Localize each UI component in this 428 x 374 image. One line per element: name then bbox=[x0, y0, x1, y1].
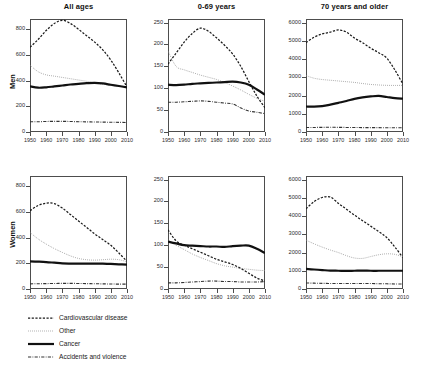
y-tick-label: 600 bbox=[4, 52, 25, 58]
y-tick bbox=[164, 201, 168, 202]
panel-women-1: 0501001502002501950196019701980199020002… bbox=[142, 159, 269, 308]
series-line-cardiovascular-disease bbox=[30, 203, 127, 261]
y-tick bbox=[164, 245, 168, 246]
series-line-other bbox=[168, 51, 265, 101]
x-tick bbox=[111, 132, 112, 136]
y-tick bbox=[164, 180, 168, 181]
y-tick-label: 200 bbox=[4, 260, 25, 266]
y-tick-label: 4000 bbox=[280, 213, 301, 219]
y-tick bbox=[26, 186, 30, 187]
y-tick-label: 50 bbox=[142, 264, 163, 270]
x-tick bbox=[184, 132, 185, 136]
legend-key-dashed-icon bbox=[28, 313, 54, 323]
y-tick bbox=[302, 41, 306, 42]
x-tick bbox=[338, 289, 339, 293]
x-tick bbox=[62, 289, 63, 293]
x-tick bbox=[62, 132, 63, 136]
x-tick bbox=[265, 132, 266, 136]
y-tick bbox=[302, 216, 306, 217]
x-tick-label: 2010 bbox=[254, 137, 276, 143]
legend-key-dash-dot-icon bbox=[28, 352, 54, 362]
x-tick bbox=[200, 132, 201, 136]
panel-title: All ages bbox=[30, 2, 127, 11]
x-tick bbox=[249, 132, 250, 136]
y-tick bbox=[26, 55, 30, 56]
y-tick bbox=[164, 88, 168, 89]
y-tick-label: 2000 bbox=[280, 250, 301, 256]
plot-area bbox=[306, 176, 403, 289]
y-tick-label: 100 bbox=[142, 85, 163, 91]
y-tick bbox=[26, 212, 30, 213]
series-canvas bbox=[168, 176, 265, 289]
series-line-other bbox=[306, 240, 403, 258]
x-tick bbox=[233, 132, 234, 136]
y-tick-label: 5000 bbox=[280, 38, 301, 44]
y-tick-label: 3000 bbox=[280, 231, 301, 237]
y-tick-label: 1000 bbox=[280, 268, 301, 274]
panel-men-0: All ages02004006008001950196019701980199… bbox=[4, 2, 131, 151]
plot-area bbox=[168, 176, 265, 289]
series-canvas bbox=[306, 176, 403, 289]
y-tick-label: 6000 bbox=[280, 20, 301, 26]
legend-key-solid-thick-icon bbox=[28, 339, 54, 349]
y-tick-label: 6000 bbox=[280, 177, 301, 183]
y-tick-label: 600 bbox=[4, 209, 25, 215]
x-tick bbox=[322, 132, 323, 136]
x-tick bbox=[30, 289, 31, 293]
y-tick bbox=[302, 23, 306, 24]
chart-legend: Cardiovascular diseaseOtherCancerAcciden… bbox=[28, 311, 268, 363]
series-canvas bbox=[306, 19, 403, 132]
y-tick bbox=[26, 263, 30, 264]
series-canvas bbox=[30, 19, 127, 132]
x-tick bbox=[338, 132, 339, 136]
y-tick-label: 200 bbox=[4, 103, 25, 109]
y-tick bbox=[302, 180, 306, 181]
y-tick bbox=[302, 253, 306, 254]
x-tick bbox=[168, 289, 169, 293]
x-tick bbox=[387, 289, 388, 293]
x-tick bbox=[111, 289, 112, 293]
series-line-cardiovascular-disease bbox=[306, 197, 403, 258]
series-line-cancer bbox=[30, 261, 127, 264]
x-tick-label: 2010 bbox=[392, 294, 414, 300]
series-line-accidents-and-violence bbox=[168, 281, 265, 283]
y-tick bbox=[302, 77, 306, 78]
series-line-cancer bbox=[306, 269, 403, 271]
x-tick bbox=[322, 289, 323, 293]
y-tick-label: 1000 bbox=[280, 111, 301, 117]
legend-label: Other bbox=[59, 327, 76, 334]
x-tick-label: 2010 bbox=[392, 137, 414, 143]
series-line-cancer bbox=[168, 242, 265, 253]
x-tick-label: 2010 bbox=[116, 294, 138, 300]
x-tick bbox=[355, 289, 356, 293]
y-tick-label: 800 bbox=[4, 26, 25, 32]
y-tick bbox=[164, 44, 168, 45]
panel-women-0: 0200400600800195019601970198019902000201… bbox=[4, 159, 131, 308]
x-tick bbox=[217, 289, 218, 293]
y-tick bbox=[302, 114, 306, 115]
y-tick-label: 0 bbox=[280, 286, 301, 292]
y-tick bbox=[26, 238, 30, 239]
x-tick bbox=[200, 289, 201, 293]
y-tick-label: 150 bbox=[142, 220, 163, 226]
series-line-cardiovascular-disease bbox=[306, 30, 403, 84]
y-tick-label: 400 bbox=[4, 78, 25, 84]
y-tick bbox=[302, 198, 306, 199]
y-tick-label: 200 bbox=[142, 41, 163, 47]
y-tick-label: 150 bbox=[142, 63, 163, 69]
y-tick-label: 5000 bbox=[280, 195, 301, 201]
x-tick bbox=[79, 132, 80, 136]
y-tick-label: 3000 bbox=[280, 74, 301, 80]
plot-area bbox=[30, 176, 127, 289]
series-line-accidents-and-violence bbox=[306, 283, 403, 284]
x-tick bbox=[233, 289, 234, 293]
y-tick-label: 250 bbox=[142, 177, 163, 183]
figure-root: Men Women All ages0200400600800195019601… bbox=[0, 0, 428, 374]
x-tick bbox=[184, 289, 185, 293]
x-tick bbox=[95, 289, 96, 293]
y-tick bbox=[302, 59, 306, 60]
panel-women-2: 0100020003000400050006000195019601970198… bbox=[280, 159, 407, 308]
y-tick bbox=[164, 23, 168, 24]
y-tick-label: 400 bbox=[4, 235, 25, 241]
series-line-cancer bbox=[30, 83, 127, 88]
